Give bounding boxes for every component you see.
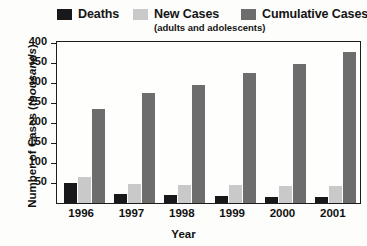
bar-deaths xyxy=(315,197,328,203)
y-axis-tick-label: 400 xyxy=(29,35,47,47)
bar-cumulative-cases xyxy=(343,52,356,203)
y-axis-tick-label: 200 xyxy=(29,115,47,127)
y-axis-tick-label: 50 xyxy=(35,175,47,187)
y-axis-tick-label: 350 xyxy=(29,55,47,67)
legend-label-deaths: Deaths xyxy=(78,7,119,21)
bar-group xyxy=(208,42,258,203)
x-axis-tick-label: 2000 xyxy=(257,207,307,219)
bar-deaths xyxy=(164,195,177,203)
bar-deaths xyxy=(114,194,127,203)
bar-cumulative-cases xyxy=(142,93,155,203)
legend-item-cumulative-cases: Cumulative Cases xyxy=(241,7,367,21)
legend-swatch-icon xyxy=(57,9,72,20)
bar-new-cases xyxy=(329,186,342,203)
x-axis-tick-label: 1996 xyxy=(56,207,106,219)
y-axis-tick-label: 250 xyxy=(29,95,47,107)
legend-sublabel-new-cases: (adults and adolescents) xyxy=(154,22,265,33)
x-axis-tick-label: 1998 xyxy=(157,207,207,219)
y-axis-tick-label: 100 xyxy=(29,155,47,167)
bar-group xyxy=(107,42,157,203)
bar-group xyxy=(158,42,208,203)
chart-page: Deaths New Cases (adults and adolescents… xyxy=(0,0,367,246)
bar-deaths xyxy=(215,196,228,203)
bar-group xyxy=(57,42,107,203)
bar-deaths xyxy=(64,183,77,203)
y-axis-tick-label: 300 xyxy=(29,75,47,87)
legend-swatch-icon xyxy=(241,9,256,20)
bar-new-cases xyxy=(128,184,141,203)
bar-new-cases xyxy=(78,177,91,203)
bar-new-cases xyxy=(279,186,292,203)
bar-cumulative-cases xyxy=(243,73,256,203)
chart-legend: Deaths New Cases (adults and adolescents… xyxy=(0,2,367,36)
bar-deaths xyxy=(265,197,278,203)
bar-new-cases xyxy=(178,185,191,203)
bar-cumulative-cases xyxy=(92,109,105,203)
plot-area xyxy=(56,41,361,204)
x-axis-tick-label: 2001 xyxy=(308,207,358,219)
x-axis-tick-label: 1997 xyxy=(106,207,156,219)
y-axis-tick-label: 150 xyxy=(29,135,47,147)
bar-new-cases xyxy=(229,185,242,203)
x-axis-title: Year xyxy=(0,228,367,240)
legend-swatch-icon xyxy=(133,9,148,20)
bar-cumulative-cases xyxy=(293,64,306,203)
bar-group xyxy=(309,42,359,203)
x-axis-tick-label: 1999 xyxy=(207,207,257,219)
legend-item-deaths: Deaths xyxy=(57,7,119,21)
bar-cumulative-cases xyxy=(192,85,205,203)
bar-group xyxy=(258,42,308,203)
legend-label-cumulative-cases: Cumulative Cases xyxy=(262,7,367,21)
